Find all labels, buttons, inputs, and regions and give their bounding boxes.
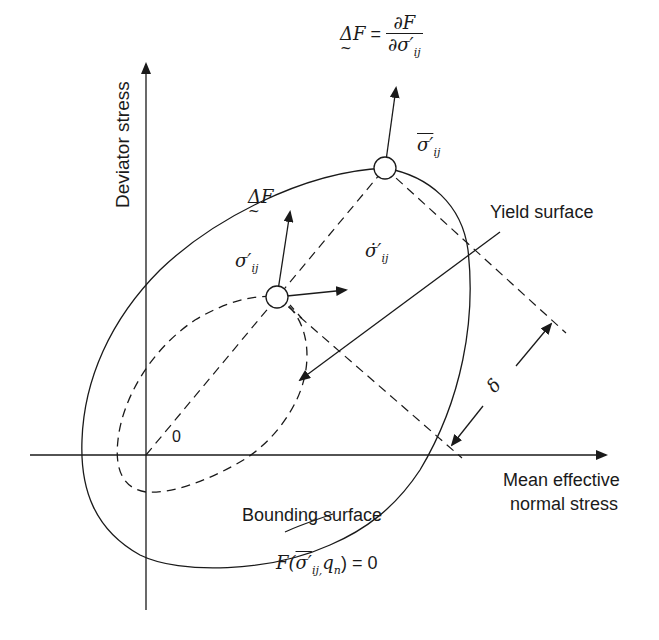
equation-suffix: ) = 0 xyxy=(341,553,378,573)
gradient-top-eq: = xyxy=(366,24,387,44)
bounding-point xyxy=(374,157,396,179)
equation-sigma-sub: ij, xyxy=(312,564,322,577)
den-sub: ij xyxy=(414,46,421,59)
den-partial: ∂ xyxy=(388,34,397,55)
y-axis-label: Deviator stress xyxy=(112,81,134,208)
yield-gradient-label: ΔF xyxy=(248,186,274,207)
equation-prefix: F( xyxy=(276,552,296,573)
den-sigma: σ′ xyxy=(397,34,413,55)
x-axis-label-line1: Mean effective xyxy=(503,470,620,491)
fraction-numerator: ∂F xyxy=(386,12,423,34)
bounding-equation: F(σ′ij,qn) = 0 xyxy=(276,552,377,577)
gradient-fraction: ∂F∂σ′ij xyxy=(386,12,423,59)
delta-arrow-upper xyxy=(516,324,551,366)
yield-point xyxy=(266,286,288,308)
gradient-formula-top: ΔF = ∂F∂σ′ij xyxy=(340,12,423,59)
x-axis-label-line2: normal stress xyxy=(510,494,618,515)
fraction-denominator: ∂σ′ij xyxy=(386,34,423,59)
delta-arrow-lower xyxy=(452,406,483,445)
equation-sigma: σ′ xyxy=(296,552,312,573)
origin-label: 0 xyxy=(172,428,181,446)
stress-rate-label: σ̇′ij xyxy=(365,240,388,265)
yield-stress-label: σ′ij xyxy=(235,250,258,275)
gradient-arrow-bound xyxy=(385,88,396,168)
equation-q-sub: n xyxy=(334,564,341,577)
dashed-ray-origin xyxy=(146,168,385,455)
diagram-canvas xyxy=(0,0,659,640)
yield-surface-label: Yield surface xyxy=(490,202,593,223)
equation-q: q xyxy=(322,552,334,573)
bound-stress-label: σ′ij xyxy=(417,134,440,159)
gradient-arrow-yield xyxy=(277,212,290,297)
bounding-surface-label: Bounding surface xyxy=(242,505,382,526)
gradient-top-lhs: ΔF xyxy=(340,23,366,44)
